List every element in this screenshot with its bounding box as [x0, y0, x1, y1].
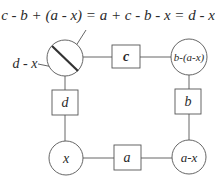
edge-box-c: c	[112, 45, 140, 68]
equation-text: c - b + (a - x) = a + c - b - x = d - x	[1, 7, 215, 24]
top-right-node: b-(a-x)	[171, 39, 207, 75]
edge-box-b: b	[175, 89, 201, 114]
edge-label-c: c	[123, 49, 130, 64]
bottom-right-node: a-x	[172, 140, 206, 174]
node-label-top-right: b-(a-x)	[174, 51, 205, 64]
edge-label-a: a	[124, 150, 131, 165]
node-label-bottom-right: a-x	[181, 150, 198, 165]
edge-label-b: b	[185, 94, 192, 109]
bottom-left-node: x	[49, 141, 83, 175]
edge-label-d: d	[62, 95, 70, 110]
edge-box-a: a	[114, 145, 141, 170]
cycle-diagram: c - b + (a - x) = a + c - b - x = d - x …	[0, 0, 215, 183]
top-left-node	[47, 40, 83, 76]
node-label-bottom-left: x	[62, 151, 70, 166]
pointer-label: d - x	[13, 56, 39, 71]
edge-box-d: d	[52, 90, 78, 115]
